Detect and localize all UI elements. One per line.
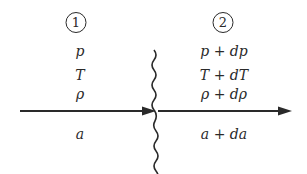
- region-2-temperature: T + dT: [200, 68, 248, 82]
- diagram-canvas: [0, 0, 307, 174]
- region-1-pressure: p: [76, 44, 85, 58]
- region-1-temperature: T: [75, 68, 84, 82]
- region-1-sound-speed: a: [76, 127, 84, 141]
- wave-front-line: [152, 50, 158, 174]
- region-1-marker: 1: [66, 12, 87, 33]
- outflow-arrowhead-icon: [278, 107, 292, 116]
- region-2-sound-speed: a + da: [201, 127, 247, 141]
- region-1-density: ρ: [76, 87, 84, 101]
- region-2-pressure: p + dp: [200, 44, 248, 58]
- region-2-density: ρ + dρ: [201, 87, 247, 101]
- region-2-marker: 2: [213, 12, 234, 33]
